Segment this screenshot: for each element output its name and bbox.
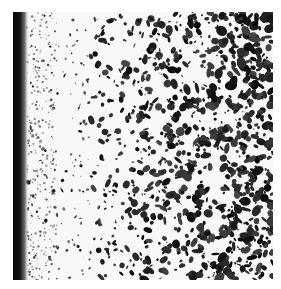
micrograph-texture bbox=[13, 12, 273, 280]
micrograph-image bbox=[13, 12, 273, 280]
dark-edge bbox=[13, 12, 29, 280]
